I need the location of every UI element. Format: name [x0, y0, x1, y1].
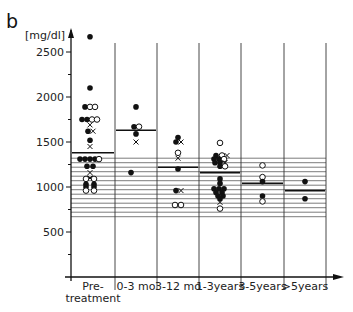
- data-points: [77, 34, 308, 212]
- open-circle-marker: [91, 188, 97, 194]
- filled-circle-marker: [87, 137, 93, 143]
- category-label: 3-5years: [238, 280, 287, 293]
- cross-marker: [179, 188, 184, 193]
- y-tick-label: 500: [43, 226, 64, 239]
- filled-circle-marker: [79, 117, 85, 123]
- filled-circle-marker: [302, 196, 308, 202]
- filled-circle-marker: [90, 164, 96, 170]
- category-label: >5years: [282, 280, 329, 293]
- open-circle-marker: [83, 188, 89, 194]
- cross-marker: [134, 140, 139, 145]
- open-circle-marker: [260, 163, 266, 169]
- category-labels: Pre-treatment0-3 mo3-12 mo1-3years3-5yea…: [65, 280, 328, 305]
- cross-marker: [179, 140, 184, 145]
- open-circle-marker: [178, 202, 184, 208]
- reference-band: [71, 158, 326, 217]
- filled-circle-marker: [87, 156, 93, 162]
- filled-circle-marker: [175, 166, 181, 172]
- filled-circle-marker: [260, 179, 266, 185]
- filled-circle-marker: [84, 164, 90, 170]
- filled-circle-marker: [217, 181, 223, 187]
- y-tick-label: 1500: [36, 136, 64, 149]
- filled-circle-marker: [128, 170, 134, 176]
- open-circle-marker: [222, 164, 228, 170]
- filled-circle-marker: [173, 139, 179, 145]
- open-circle-marker: [92, 104, 98, 110]
- category-label: 3-12 mo: [155, 280, 201, 293]
- open-circle-marker: [94, 117, 100, 123]
- filled-circle-marker: [87, 85, 93, 91]
- scatter-chart: 5001000150020002500[mg/dl] Pre-treatment…: [0, 0, 353, 312]
- filled-circle-marker: [173, 188, 179, 194]
- filled-circle-marker: [212, 160, 218, 166]
- open-circle-marker: [91, 176, 97, 182]
- filled-circle-marker: [133, 131, 139, 137]
- category-label: treatment: [65, 292, 121, 305]
- open-circle-marker: [136, 124, 142, 130]
- y-tick-label: 2500: [36, 46, 64, 59]
- open-circle-marker: [175, 150, 181, 156]
- open-circle-marker: [83, 176, 89, 182]
- filled-circle-marker: [85, 128, 91, 134]
- y-axis-arrow-icon: [68, 28, 74, 38]
- filled-circle-marker: [302, 179, 308, 185]
- cross-marker: [88, 170, 93, 175]
- filled-circle-marker: [260, 193, 266, 199]
- cross-marker: [88, 122, 93, 127]
- open-circle-marker: [96, 156, 102, 162]
- y-axis-label: [mg/dl]: [25, 29, 65, 42]
- filled-circle-marker: [82, 156, 88, 162]
- open-circle-marker: [217, 140, 223, 146]
- category-label: 1-3years: [196, 280, 245, 293]
- open-circle-marker: [217, 206, 223, 212]
- category-label: 0-3 mo: [117, 280, 156, 293]
- filled-circle-marker: [77, 156, 83, 162]
- cross-marker: [88, 144, 93, 149]
- filled-circle-marker: [133, 104, 139, 110]
- group-mean-lines: [72, 130, 325, 190]
- cross-marker: [91, 129, 96, 134]
- open-circle-marker: [260, 199, 266, 205]
- y-tick-label: 2000: [36, 91, 64, 104]
- open-circle-marker: [172, 202, 178, 208]
- y-tick-label: 1000: [36, 181, 64, 194]
- filled-circle-marker: [87, 34, 93, 40]
- y-axis: 5001000150020002500[mg/dl]: [25, 28, 74, 281]
- x-axis-arrow-icon: [333, 274, 344, 280]
